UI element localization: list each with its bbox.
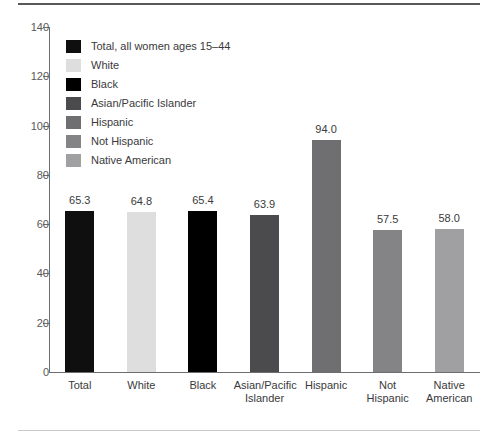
legend-swatch-icon xyxy=(66,116,81,129)
bottom-divider-rule xyxy=(18,430,480,431)
chart-legend: Total, all women ages 15–44WhiteBlackAsi… xyxy=(66,37,296,170)
x-axis-label-line: American xyxy=(418,392,480,405)
legend-label: Black xyxy=(91,79,118,90)
y-tick-label: 0 xyxy=(15,367,49,378)
bar-not-hispanic[interactable] xyxy=(373,230,402,372)
y-tick-label: 20 xyxy=(15,318,49,329)
legend-row-1[interactable]: White xyxy=(66,56,296,75)
legend-row-3[interactable]: Asian/Pacific Islander xyxy=(66,94,296,113)
legend-swatch-icon xyxy=(66,59,81,72)
legend-swatch-icon xyxy=(66,97,81,110)
x-axis-label-line: Not Hispanic xyxy=(357,379,419,405)
bar-value-label: 57.5 xyxy=(358,214,418,225)
legend-row-5[interactable]: Not Hispanic xyxy=(66,132,296,151)
x-axis-label-line: Black xyxy=(172,379,234,392)
y-tick-label: 140 xyxy=(15,22,49,33)
bar-chart-figure: 020406080100120140 65.364.865.463.994.05… xyxy=(0,0,492,438)
bar-hispanic[interactable] xyxy=(312,140,341,372)
x-axis-label-asian-pacific-islander: Asian/PacificIslander xyxy=(234,379,296,405)
legend-label: Not Hispanic xyxy=(91,136,153,147)
top-divider-rule xyxy=(18,3,480,5)
legend-label: Native American xyxy=(91,155,171,166)
x-axis-labels: TotalWhiteBlackAsian/PacificIslanderHisp… xyxy=(49,379,480,424)
legend-swatch-icon xyxy=(66,78,81,91)
x-axis-label-hispanic: Hispanic xyxy=(295,379,357,392)
legend-label: Total, all women ages 15–44 xyxy=(91,41,230,52)
bar-value-label: 64.8 xyxy=(111,196,171,207)
y-tick-label: 60 xyxy=(15,219,49,230)
legend-row-6[interactable]: Native American xyxy=(66,151,296,170)
bar-asian-pacific-islander[interactable] xyxy=(250,215,279,372)
bar-value-label: 94.0 xyxy=(296,124,356,135)
x-axis-label-black: Black xyxy=(172,379,234,392)
legend-row-2[interactable]: Black xyxy=(66,75,296,94)
legend-label: Hispanic xyxy=(91,117,133,128)
y-tick-label: 120 xyxy=(15,71,49,82)
bar-value-label: 65.3 xyxy=(50,195,110,206)
x-axis-label-white: White xyxy=(111,379,173,392)
bar-value-label: 65.4 xyxy=(173,195,233,206)
x-axis-label-line: Asian/Pacific xyxy=(234,379,296,392)
x-axis-label-native-american: NativeAmerican xyxy=(418,379,480,405)
y-tick-label: 100 xyxy=(15,121,49,132)
bar-total[interactable] xyxy=(65,211,94,372)
bar-value-label: 63.9 xyxy=(235,199,295,210)
x-axis-label-line: Total xyxy=(49,379,111,392)
legend-label: Asian/Pacific Islander xyxy=(91,98,196,109)
bar-black[interactable] xyxy=(188,211,217,372)
y-tick-label: 40 xyxy=(15,268,49,279)
x-axis-label-not-hispanic: Not Hispanic xyxy=(357,379,419,405)
x-axis-line xyxy=(49,372,480,373)
legend-swatch-icon xyxy=(66,135,81,148)
legend-row-4[interactable]: Hispanic xyxy=(66,113,296,132)
bar-value-label: 58.0 xyxy=(419,213,479,224)
x-axis-label-total: Total xyxy=(49,379,111,392)
x-axis-label-line: Hispanic xyxy=(295,379,357,392)
bar-white[interactable] xyxy=(127,212,156,372)
x-axis-label-line: Native xyxy=(418,379,480,392)
x-axis-label-line: Islander xyxy=(234,392,296,405)
legend-row-0[interactable]: Total, all women ages 15–44 xyxy=(66,37,296,56)
x-axis-label-line: White xyxy=(111,379,173,392)
bar-native-american[interactable] xyxy=(435,229,464,372)
legend-swatch-icon xyxy=(66,154,81,167)
y-tick-label: 80 xyxy=(15,170,49,181)
legend-label: White xyxy=(91,60,119,71)
legend-swatch-icon xyxy=(66,40,81,53)
